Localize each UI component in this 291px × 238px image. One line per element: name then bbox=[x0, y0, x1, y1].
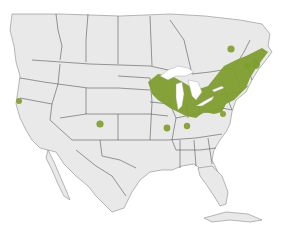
colorado-patch bbox=[96, 120, 103, 127]
west-virginia-patch bbox=[220, 111, 226, 117]
indiana-patch bbox=[184, 123, 190, 129]
california-coast-patch bbox=[16, 98, 22, 104]
land-mass bbox=[10, 14, 272, 212]
cuba bbox=[204, 212, 262, 222]
north-america-map bbox=[0, 0, 291, 238]
quebec-isolated-patch bbox=[227, 45, 234, 52]
florida bbox=[198, 166, 228, 206]
range-map bbox=[0, 0, 291, 238]
nova-scotia-patch bbox=[252, 59, 260, 69]
illinois-patch bbox=[164, 125, 171, 132]
new-brunswick-patch bbox=[244, 63, 250, 69]
